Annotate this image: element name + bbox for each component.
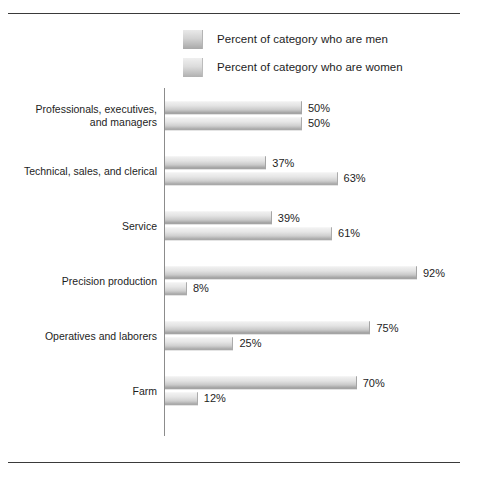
bar-pair: 39%61% (165, 209, 475, 243)
bar-value-label: 63% (344, 172, 366, 184)
bar-pair: 50%50% (165, 99, 475, 133)
bar-women[interactable] (165, 337, 233, 350)
bar-value-label: 50% (308, 117, 330, 129)
bar-men[interactable] (165, 266, 417, 279)
bar-pair: 75%25% (165, 319, 475, 353)
bar-group: Professionals, executives, and managers5… (0, 88, 477, 143)
bar-value-label: 50% (308, 102, 330, 114)
bar-groups: Professionals, executives, and managers5… (0, 88, 477, 418)
bar-row-men: 37% (165, 156, 475, 169)
bar-row-women: 25% (165, 337, 475, 350)
bar-pair: 37%63% (165, 154, 475, 188)
bar-row-women: 12% (165, 392, 475, 405)
bar-men[interactable] (165, 156, 266, 169)
bottom-rule (8, 462, 460, 463)
bar-row-men: 70% (165, 376, 475, 389)
bar-value-label: 37% (272, 157, 294, 169)
category-label: Operatives and laborers (7, 329, 157, 342)
bar-row-women: 63% (165, 172, 475, 185)
bar-value-label: 70% (363, 377, 385, 389)
category-label: Service (7, 219, 157, 232)
bar-group: Precision production92%8% (0, 253, 477, 308)
top-rule (8, 13, 460, 14)
legend-label-women: Percent of category who are women (217, 61, 403, 73)
bar-men[interactable] (165, 376, 357, 389)
bar-row-women: 8% (165, 282, 475, 295)
bar-men[interactable] (165, 321, 370, 334)
chart-legend: Percent of category who are men Percent … (183, 28, 443, 84)
bar-row-women: 61% (165, 227, 475, 240)
bar-row-men: 39% (165, 211, 475, 224)
bar-row-men: 50% (165, 101, 475, 114)
category-label: Technical, sales, and clerical (7, 164, 157, 177)
legend-item-women: Percent of category who are women (183, 56, 443, 78)
category-label: Professionals, executives, and managers (7, 103, 157, 129)
bar-group: Operatives and laborers75%25% (0, 308, 477, 363)
bar-row-women: 50% (165, 117, 475, 130)
bar-value-label: 61% (338, 227, 360, 239)
bar-value-label: 75% (376, 322, 398, 334)
bar-women[interactable] (165, 227, 332, 240)
bar-men[interactable] (165, 101, 302, 114)
bar-men[interactable] (165, 211, 272, 224)
plot-area: Professionals, executives, and managers5… (0, 88, 477, 443)
category-label: Farm (7, 384, 157, 397)
bar-value-label: 25% (239, 337, 261, 349)
legend-label-men: Percent of category who are men (217, 33, 388, 45)
bar-group: Technical, sales, and clerical37%63% (0, 143, 477, 198)
bar-row-men: 92% (165, 266, 475, 279)
bar-value-label: 39% (278, 212, 300, 224)
bar-pair: 92%8% (165, 264, 475, 298)
bar-women[interactable] (165, 282, 187, 295)
bar-women[interactable] (165, 392, 198, 405)
bar-value-label: 8% (193, 282, 209, 294)
category-label: Precision production (7, 274, 157, 287)
legend-swatch-women-icon (183, 58, 203, 77)
bar-pair: 70%12% (165, 374, 475, 408)
bar-row-men: 75% (165, 321, 475, 334)
legend-item-men: Percent of category who are men (183, 28, 443, 50)
bar-group: Service39%61% (0, 198, 477, 253)
bar-group: Farm70%12% (0, 363, 477, 418)
bar-value-label: 12% (204, 392, 226, 404)
bar-women[interactable] (165, 117, 302, 130)
bar-value-label: 92% (423, 267, 445, 279)
legend-swatch-men-icon (183, 30, 203, 49)
chart-figure: Percent of category who are men Percent … (0, 0, 477, 483)
bar-women[interactable] (165, 172, 338, 185)
